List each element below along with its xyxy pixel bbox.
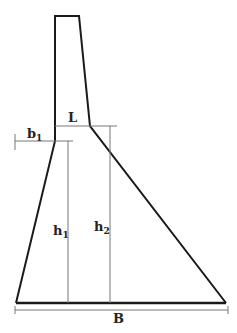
dimension-lines xyxy=(15,126,228,314)
label-B: B xyxy=(113,311,124,326)
label-h2: h2 xyxy=(94,219,110,236)
dam-outline xyxy=(16,16,226,303)
dam-profile xyxy=(16,16,226,303)
label-h1: h1 xyxy=(53,223,69,240)
dam-diagram: L b1 h1 h2 B xyxy=(0,0,237,333)
label-b1: b1 xyxy=(27,126,42,143)
label-L: L xyxy=(68,110,77,125)
